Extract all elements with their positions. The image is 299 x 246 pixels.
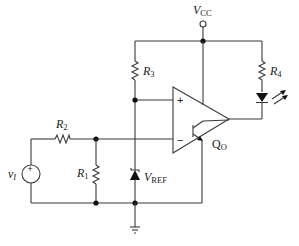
ground — [130, 203, 140, 233]
junction-dot — [93, 200, 98, 205]
qo-label: QO — [212, 137, 227, 152]
output-transistor-qo: QO — [193, 120, 229, 203]
voltage-source-vi: + vI — [8, 139, 40, 203]
r4-label: R4 — [269, 64, 282, 79]
vi-label: vI — [8, 167, 17, 182]
circuit-schematic: VCC R3 R4 + − — [0, 0, 299, 246]
plus-input-label: + — [177, 94, 183, 106]
resistor-r3: R3 — [132, 41, 155, 139]
resistor-zigzag-icon — [259, 61, 265, 80]
r2-label: R2 — [55, 117, 68, 132]
led — [256, 90, 288, 119]
resistor-r4: R4 — [259, 41, 282, 92]
resistor-zigzag-icon — [55, 135, 70, 143]
led-diode-icon — [256, 93, 268, 102]
junction-dot — [132, 97, 137, 102]
resistor-r2: R2 — [31, 117, 70, 143]
vcc-terminal: VCC — [193, 3, 212, 41]
resistor-zigzag-icon — [132, 61, 138, 80]
resistor-zigzag-icon — [93, 165, 99, 184]
vcc-label: VCC — [193, 3, 212, 18]
ground-icon — [130, 227, 140, 233]
source-plus-label: + — [28, 164, 33, 174]
minus-input-label: − — [177, 134, 183, 146]
zener-vref: VREF — [130, 139, 167, 203]
resistor-r1: R1 — [76, 139, 99, 203]
light-emission-arrows-icon — [272, 90, 288, 104]
r3-label: R3 — [142, 64, 155, 79]
r1-label: R1 — [76, 166, 89, 181]
vref-label: VREF — [144, 170, 167, 185]
